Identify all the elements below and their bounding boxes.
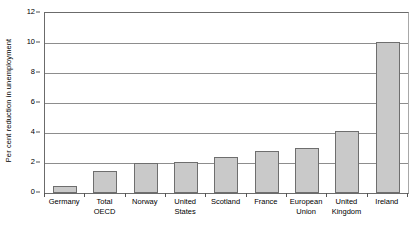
y-tick-mark-8 (36, 72, 40, 73)
x-axis-labels: GermanyTotal OECDNorwayUnited StatesScot… (44, 197, 407, 216)
x-axis-label-germany: Germany (44, 197, 84, 216)
x-axis-label-united-states: United States (165, 197, 205, 216)
bar[interactable] (335, 131, 359, 193)
plot-inner (45, 13, 408, 193)
y-tick-mark-4 (36, 132, 40, 133)
bar[interactable] (295, 148, 319, 193)
y-tick-label-6: 6 (31, 98, 35, 106)
bar-slot (45, 13, 85, 193)
bar-slot (206, 13, 246, 193)
y-tick-label-12: 12 (27, 8, 35, 16)
y-tick-mark-6 (36, 102, 40, 103)
bar-slot (368, 13, 408, 193)
x-axis-label-scotland: Scotland (205, 197, 245, 216)
bar[interactable] (255, 151, 279, 193)
y-tick-label-8: 8 (31, 68, 35, 76)
bar[interactable] (174, 162, 198, 194)
bar-slot (287, 13, 327, 193)
y-tick-mark-12 (36, 12, 40, 13)
y-tick-mark-0 (36, 192, 40, 193)
bar[interactable] (53, 186, 77, 194)
x-axis-label-united-kingdom: United Kingdom (326, 197, 366, 216)
bar[interactable] (214, 157, 238, 193)
bar-chart: Per cent reduction in unemployment 02468… (0, 0, 419, 236)
bar-slot (85, 13, 125, 193)
y-tick-label-0: 0 (31, 188, 35, 196)
x-axis-label-european-union: European Union (286, 197, 326, 216)
x-axis-label-ireland: Ireland (367, 197, 407, 216)
bar-slot (327, 13, 367, 193)
y-axis-ticks: 024681012 (18, 0, 40, 200)
bar-series (45, 13, 408, 193)
y-axis-title-text: Per cent reduction in unemployment (5, 38, 14, 161)
y-axis-title: Per cent reduction in unemployment (0, 0, 18, 200)
y-tick-mark-2 (36, 162, 40, 163)
bar[interactable] (376, 42, 400, 194)
bar-slot (166, 13, 206, 193)
x-axis-label-norway: Norway (125, 197, 165, 216)
y-tick-label-4: 4 (31, 128, 35, 136)
y-tick-label-2: 2 (31, 158, 35, 166)
y-tick-mark-10 (36, 42, 40, 43)
x-axis-label-total oecd: Total OECD (84, 197, 124, 216)
bar-slot (247, 13, 287, 193)
bar-slot (126, 13, 166, 193)
plot-area (44, 12, 409, 194)
bar[interactable] (134, 163, 158, 193)
x-axis-label-france: France (246, 197, 286, 216)
x-tick-mark (407, 193, 408, 197)
bar[interactable] (93, 171, 117, 194)
y-tick-label-10: 10 (27, 38, 35, 46)
